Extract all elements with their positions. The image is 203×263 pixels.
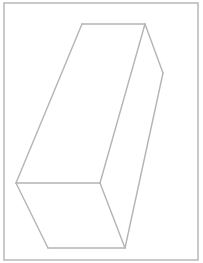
prism-diagram: [0, 0, 203, 263]
diagram-frame: [4, 3, 198, 260]
front-left-edge: [16, 183, 48, 248]
middle-long-edge: [100, 24, 145, 183]
right-long-edge: [125, 73, 163, 248]
front-right-edge: [100, 183, 125, 248]
left-long-edge: [16, 24, 82, 183]
top-right-slant: [145, 24, 163, 73]
prism-edges: [16, 24, 163, 248]
